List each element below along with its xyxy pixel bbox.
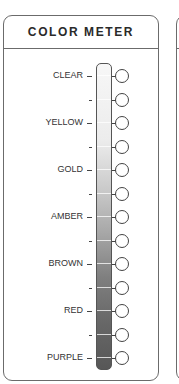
- circle-marker-icon: [115, 257, 129, 271]
- tube-mark-line: [97, 240, 111, 241]
- color-label: RED: [64, 305, 83, 315]
- circle-marker-icon: [115, 328, 129, 342]
- major-tick: [87, 76, 92, 77]
- tube-mark-line: [97, 263, 111, 264]
- color-label: GOLD: [57, 164, 83, 174]
- tube-mark-line: [97, 216, 111, 217]
- tube-mark-line: [97, 193, 111, 194]
- tube-mark-line: [97, 99, 111, 100]
- color-label: AMBER: [51, 211, 83, 221]
- circle-marker-icon: [115, 351, 129, 365]
- minor-tick: [89, 241, 92, 242]
- minor-tick: [89, 147, 92, 148]
- circle-marker-icon: [115, 93, 129, 107]
- header-divider: [4, 48, 158, 49]
- minor-tick: [89, 100, 92, 101]
- adjacent-card: [176, 15, 179, 381]
- minor-tick: [89, 335, 92, 336]
- major-tick: [87, 264, 92, 265]
- color-label: YELLOW: [45, 117, 83, 127]
- color-label: BROWN: [49, 258, 84, 268]
- minor-tick: [89, 288, 92, 289]
- tube-mark-line: [97, 169, 111, 170]
- major-tick: [87, 123, 92, 124]
- circle-marker-icon: [115, 304, 129, 318]
- circle-marker-icon: [115, 69, 129, 83]
- circle-marker-icon: [115, 210, 129, 224]
- tube-mark-line: [97, 75, 111, 76]
- tube-mark-line: [97, 334, 111, 335]
- card-title: COLOR METER: [4, 25, 158, 39]
- major-tick: [87, 311, 92, 312]
- circle-marker-icon: [115, 140, 129, 154]
- tube-mark-line: [97, 122, 111, 123]
- major-tick: [87, 170, 92, 171]
- tube-mark-line: [97, 287, 111, 288]
- major-tick: [87, 358, 92, 359]
- color-meter-card: COLOR METER CLEARYELLOWGOLDAMBERBROWNRED…: [3, 15, 159, 381]
- tube-mark-line: [97, 146, 111, 147]
- major-tick: [87, 217, 92, 218]
- minor-tick: [89, 194, 92, 195]
- adjacent-card-divider: [177, 48, 179, 49]
- circle-marker-icon: [115, 163, 129, 177]
- tube-mark-line: [97, 310, 111, 311]
- circle-marker-icon: [115, 234, 129, 248]
- circle-marker-icon: [115, 116, 129, 130]
- tube-mark-line: [97, 357, 111, 358]
- circle-marker-icon: [115, 281, 129, 295]
- color-label: CLEAR: [53, 70, 83, 80]
- color-label: PURPLE: [47, 352, 83, 362]
- circle-marker-icon: [115, 187, 129, 201]
